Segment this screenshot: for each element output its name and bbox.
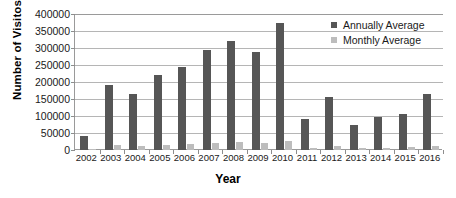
bar-group [271,14,296,150]
y-tick-mark [71,31,75,32]
bar-annually-average [374,117,382,150]
bar-annually-average [325,97,333,150]
bar-monthly-average [261,143,268,150]
bar-annually-average [301,119,309,150]
bar-group [198,14,223,150]
legend-item-monthly-average: Monthly Average [331,32,425,47]
bar-monthly-average [334,146,341,150]
bar-annually-average [399,114,407,150]
bar-annually-average [252,52,260,150]
bar-annually-average [178,67,186,150]
legend-label-monthly-average: Monthly Average [343,34,421,46]
legend-item-annually-average: Annually Average [331,17,425,32]
y-tick-mark [71,65,75,66]
bar-group [75,14,100,150]
y-tick-mark [71,14,75,15]
chart-legend: Annually Average Monthly Average [328,14,429,50]
bar-monthly-average [432,146,439,150]
bar-group [173,14,198,150]
bar-annually-average [227,41,235,150]
legend-swatch-annually-average [331,22,337,28]
bar-monthly-average [236,142,243,150]
y-tick-label: 150000 [8,94,70,105]
bar-chart: Number of Visitos 4000003500003000002500… [0,0,456,198]
legend-swatch-monthly-average [331,37,337,43]
y-tick-label: 350000 [8,26,70,37]
bar-group [124,14,149,150]
bar-monthly-average [310,148,317,150]
bar-monthly-average [163,145,170,150]
bar-monthly-average [359,148,366,150]
y-tick-mark [71,116,75,117]
bar-annually-average [276,23,284,151]
y-tick-mark [71,48,75,49]
y-tick-label: 250000 [8,60,70,71]
y-tick-label: 400000 [8,9,70,20]
bar-monthly-average [408,147,415,150]
bar-monthly-average [114,145,121,150]
y-tick-label: 100000 [8,111,70,122]
bar-annually-average [203,50,211,150]
bar-group [100,14,125,150]
x-axis-title: Year [0,172,456,186]
bar-group [247,14,272,150]
y-tick-label: 0 [8,145,70,156]
y-tick-mark [71,150,75,151]
y-tick-label: 200000 [8,77,70,88]
bar-monthly-average [212,143,219,150]
bar-annually-average [154,75,162,150]
bar-annually-average [350,125,358,150]
bar-annually-average [423,94,431,150]
bar-monthly-average [187,144,194,150]
bar-monthly-average [89,149,96,150]
y-tick-mark [71,82,75,83]
y-tick-label: 300000 [8,43,70,54]
y-tick-label: 50000 [8,128,70,139]
bar-monthly-average [285,141,292,150]
bar-annually-average [105,85,113,150]
bar-group [296,14,321,150]
legend-label-annually-average: Annually Average [343,19,425,31]
bar-annually-average [80,136,88,150]
bar-monthly-average [138,146,145,150]
y-tick-mark [71,99,75,100]
bar-monthly-average [383,148,390,150]
x-tick-label: 2016 [413,153,447,163]
bar-group [222,14,247,150]
y-tick-mark [71,133,75,134]
bar-group [149,14,174,150]
bar-annually-average [129,94,137,150]
